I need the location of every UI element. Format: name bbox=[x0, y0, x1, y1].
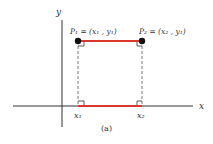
point-p2-label: P₂ = (x₂ , y₁) bbox=[138, 27, 186, 36]
tick-label-x1: x₁ bbox=[74, 111, 82, 120]
distance-diagram: y x P₁ = (x₁ , y₁) P₂ = (x₂ , y₁) x₁ x₂ … bbox=[0, 0, 213, 144]
tick-label-x2: x₂ bbox=[137, 111, 145, 120]
x-axis-label: x bbox=[199, 101, 204, 111]
y-axis-label: y bbox=[55, 7, 62, 17]
point-p2 bbox=[139, 38, 145, 44]
figure-caption: (a) bbox=[101, 124, 112, 133]
point-p1 bbox=[75, 38, 81, 44]
point-p1-label: P₁ = (x₁ , y₁) bbox=[69, 27, 117, 36]
